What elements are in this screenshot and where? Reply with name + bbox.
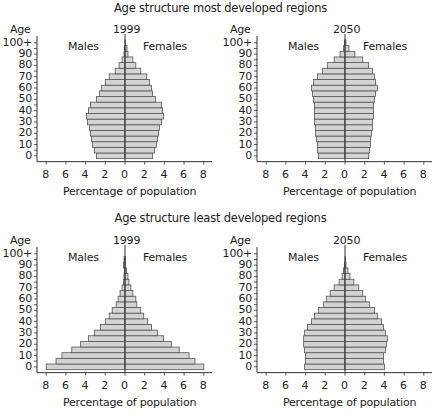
female-bar — [345, 108, 374, 114]
y-tick-label: 70 — [238, 281, 252, 294]
male-bar — [305, 330, 345, 336]
x-tick-label: 8 — [200, 379, 207, 392]
y-tick-label: 50 — [238, 303, 252, 316]
female-bar — [345, 57, 363, 63]
y-tick-label: 40 — [18, 104, 32, 117]
y-tick-label: 100+ — [3, 247, 32, 260]
male-bar — [312, 91, 345, 97]
y-tick-label: 20 — [238, 337, 252, 350]
male-bar — [99, 91, 125, 97]
male-bar — [89, 336, 125, 342]
female-bar — [345, 130, 372, 136]
female-bar — [345, 279, 354, 285]
female-bar — [345, 296, 366, 302]
y-tick-label: 0 — [25, 149, 32, 162]
male-bar — [118, 296, 125, 302]
male-bar — [304, 341, 345, 347]
x-tick-label: 4 — [380, 168, 387, 181]
female-bar — [345, 324, 383, 330]
x-tick-label: 8 — [42, 168, 49, 181]
y-tick-label: 40 — [238, 315, 252, 328]
x-axis-label: Percentage of population — [63, 396, 196, 409]
y-tick-label: 90 — [238, 258, 252, 271]
y-tick-label: 90 — [18, 47, 32, 60]
section-title-most-developed: Age structure most developed regions — [0, 1, 441, 15]
male-bar — [326, 296, 345, 302]
year-label: 1999 — [113, 234, 140, 247]
male-bar — [330, 291, 345, 297]
male-bar — [313, 97, 345, 103]
male-bar — [314, 108, 345, 114]
female-bar — [125, 279, 129, 285]
female-bar — [125, 353, 189, 359]
female-bar — [125, 153, 153, 159]
x-tick-label: 2 — [321, 379, 328, 392]
male-bar — [314, 119, 345, 125]
male-bar — [62, 353, 125, 359]
male-bar — [91, 102, 125, 108]
males-label: Males — [68, 40, 99, 53]
female-bar — [125, 57, 133, 63]
female-bar — [345, 358, 383, 364]
female-bar — [345, 313, 378, 319]
x-tick-label: 8 — [420, 168, 427, 181]
y-tick-label: 50 — [18, 92, 32, 105]
year-label: 2050 — [333, 234, 360, 247]
y-tick-label: 60 — [18, 81, 32, 94]
y-tick-label: 10 — [238, 349, 252, 362]
male-bar — [314, 113, 345, 119]
female-bar — [345, 80, 376, 86]
female-bar — [125, 91, 153, 97]
y-tick-label: 20 — [238, 126, 252, 139]
male-bar — [89, 108, 125, 114]
male-bar — [94, 147, 125, 153]
male-bar — [304, 336, 345, 342]
female-bar — [125, 336, 163, 342]
female-bar — [345, 347, 385, 353]
female-bar — [345, 302, 370, 308]
x-axis-label: Percentage of population — [63, 185, 196, 198]
y-tick-label: 30 — [238, 326, 252, 339]
female-bar — [125, 68, 141, 74]
female-bar — [125, 358, 195, 364]
y-tick-label: 60 — [238, 81, 252, 94]
female-bar — [125, 97, 156, 103]
y-tick-label: 100+ — [3, 36, 32, 49]
male-bar — [72, 347, 125, 353]
pyramid-panel: Age2050MalesFemalesPercentage of populat… — [220, 18, 440, 203]
x-tick-label: 6 — [282, 379, 289, 392]
y-tick-label: 0 — [25, 360, 32, 373]
y-tick-label: 10 — [238, 138, 252, 151]
y-tick-label: 30 — [18, 326, 32, 339]
y-tick-label: 80 — [238, 269, 252, 282]
y-tick-label: 100+ — [223, 247, 252, 260]
y-tick-label: 70 — [18, 281, 32, 294]
pyramid-panel: Age1999MalesFemalesPercentage of populat… — [0, 18, 220, 203]
female-bar — [345, 364, 384, 370]
male-bar — [322, 68, 345, 74]
female-bar — [345, 102, 374, 108]
female-bar — [345, 97, 375, 103]
x-tick-label: 8 — [262, 168, 269, 181]
male-bar — [334, 57, 345, 63]
female-bar — [125, 302, 137, 308]
x-tick-label: 2 — [141, 379, 148, 392]
male-bar — [92, 136, 125, 142]
female-bar — [345, 291, 363, 297]
female-bar — [345, 113, 374, 119]
female-bar — [345, 119, 373, 125]
y-tick-label: 90 — [18, 258, 32, 271]
y-tick-label: 90 — [238, 47, 252, 60]
female-bar — [125, 119, 161, 125]
x-tick-label: 6 — [400, 379, 407, 392]
female-bar — [125, 130, 158, 136]
male-bar — [81, 341, 125, 347]
female-bar — [345, 46, 349, 52]
females-label: Females — [363, 40, 407, 53]
female-bar — [345, 125, 373, 131]
y-tick-label: 10 — [18, 138, 32, 151]
female-bar — [345, 336, 387, 342]
male-bar — [119, 63, 125, 69]
female-bar — [125, 296, 136, 302]
female-bar — [125, 74, 147, 80]
